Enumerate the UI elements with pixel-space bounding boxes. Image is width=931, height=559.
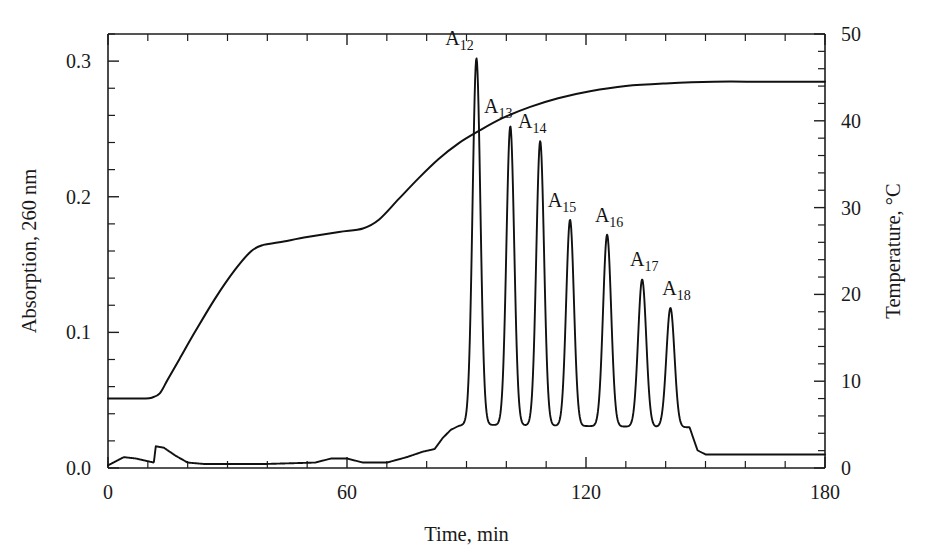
bottom-tick-label: 0 xyxy=(103,481,113,503)
right-tick-label: 30 xyxy=(841,197,861,219)
left-tick-label: 0.1 xyxy=(66,321,91,343)
peak-label-letter: A xyxy=(518,110,533,132)
bottom-tick-label: 60 xyxy=(337,481,357,503)
right-tick-label: 20 xyxy=(841,283,861,305)
bottom-tick-label: 120 xyxy=(571,481,601,503)
peak-label-letter: A xyxy=(662,277,677,299)
y2-axis-title: Temperature, °C xyxy=(882,183,905,318)
chromatogram-figure: 0.00.10.20.3 01020304050 060120180 A12A1… xyxy=(0,0,931,559)
right-tick-label: 50 xyxy=(841,23,861,45)
chart-canvas: 0.00.10.20.3 01020304050 060120180 A12A1… xyxy=(0,0,931,559)
peak-label-letter: A xyxy=(630,248,645,270)
peak-label-letter: A xyxy=(548,189,563,211)
left-tick-label: 0.0 xyxy=(66,457,91,479)
peak-label-subscript: 18 xyxy=(677,288,691,303)
chart-background xyxy=(0,0,931,559)
peak-label-subscript: 15 xyxy=(562,200,576,215)
left-tick-label: 0.2 xyxy=(66,186,91,208)
peak-label-letter: A xyxy=(484,95,499,117)
peak-label-subscript: 16 xyxy=(609,215,623,230)
bottom-tick-label: 180 xyxy=(810,481,840,503)
x-axis-title: Time, min xyxy=(424,523,509,545)
peak-label-subscript: 13 xyxy=(499,106,513,121)
peak-label-subscript: 12 xyxy=(460,38,474,53)
peak-label-letter: A xyxy=(595,204,610,226)
peak-label-subscript: 17 xyxy=(644,259,658,274)
y-axis-title: Absorption, 260 nm xyxy=(18,169,41,334)
right-tick-label: 10 xyxy=(841,370,861,392)
right-tick-label: 0 xyxy=(841,457,851,479)
peak-label-subscript: 14 xyxy=(532,121,546,136)
peak-label-letter: A xyxy=(445,27,460,49)
left-tick-label: 0.3 xyxy=(66,50,91,72)
right-tick-label: 40 xyxy=(841,110,861,132)
